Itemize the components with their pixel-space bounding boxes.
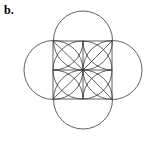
geometry-diagram (0, 0, 162, 147)
figure-container: b. (0, 0, 162, 147)
